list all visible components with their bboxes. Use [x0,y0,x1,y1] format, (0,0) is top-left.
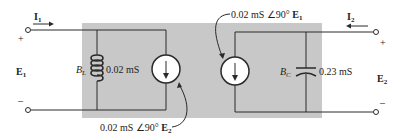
two-port-circuit-diagram: I1 + – E1 BL 0.02 mS 0.02 mS ∠90° E2 0.0… [0,0,402,140]
capacitor-value-label: 0.23 mS [319,66,352,77]
left-source-value-label: 0.02 mS ∠90° E2 [100,122,172,135]
current-i1-label: I1 [34,11,42,24]
dependent-current-source-right-icon [221,57,249,85]
port2-minus-terminal [374,110,379,115]
voltage-e1-label: E1 [16,66,27,79]
dependent-current-source-left-icon [152,55,180,83]
current-arrow-i1-icon [33,22,54,27]
port2-plus-terminal [374,30,379,35]
port2-plus-sign: + [380,37,386,48]
current-arrow-i2-icon [346,24,368,29]
port1-plus-terminal [26,28,31,33]
port1-minus-terminal [26,108,31,113]
current-i2-label: I2 [347,11,355,24]
inductor-value-label: 0.02 mS [106,64,139,75]
right-source-value-label: 0.02 mS ∠90° E1 [231,9,303,22]
voltage-e2-label: E2 [377,73,388,86]
port1-minus-sign: – [17,95,24,106]
port1-plus-sign: + [18,33,24,44]
port2-minus-sign: – [379,97,386,108]
